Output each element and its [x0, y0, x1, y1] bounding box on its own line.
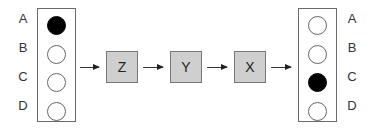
output-label-a: A	[345, 12, 359, 26]
stage-y: Y	[170, 51, 202, 83]
stage-z-label: Z	[118, 59, 127, 75]
output-label-c: C	[345, 70, 359, 84]
stage-y-label: Y	[181, 59, 190, 75]
input-label-c: C	[16, 70, 30, 84]
arrow-y-to-x-icon	[207, 67, 227, 68]
arrow-x-to-output-icon	[271, 67, 291, 68]
output-dot-d-empty-icon	[308, 102, 327, 121]
input-label-b: B	[16, 41, 30, 55]
input-label-d: D	[16, 99, 30, 113]
input-dot-a-filled-icon	[47, 16, 66, 35]
arrow-z-to-y-icon	[143, 67, 163, 68]
stage-x: X	[234, 51, 266, 83]
input-dot-b-empty-icon	[47, 45, 66, 64]
input-dot-d-empty-icon	[47, 102, 66, 121]
input-dot-c-empty-icon	[47, 73, 66, 92]
stage-z: Z	[106, 51, 138, 83]
output-label-d: D	[345, 99, 359, 113]
input-column-frame	[37, 8, 76, 122]
output-dot-b-empty-icon	[308, 45, 327, 64]
output-column-frame	[298, 8, 337, 122]
input-label-a: A	[16, 12, 30, 26]
arrow-input-to-z-icon	[80, 67, 99, 68]
output-label-b: B	[345, 41, 359, 55]
output-dot-c-filled-icon	[308, 73, 327, 92]
output-dot-a-empty-icon	[308, 16, 327, 35]
stage-x-label: X	[245, 59, 254, 75]
